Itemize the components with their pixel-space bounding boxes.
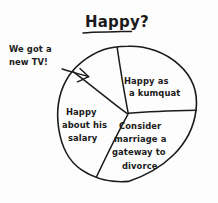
slice-label-divorce-line-1: Consider: [119, 121, 162, 131]
slice-label-kumquat-line-1: Happy as: [124, 76, 168, 86]
pie-chart-figure: Happy? We got a new TV! Happy as a kumqu…: [0, 0, 218, 203]
annotation-line-2: new TV!: [9, 57, 48, 67]
slice-label-salary-line-1: Happy: [66, 107, 97, 117]
slice-label-kumquat-line-2: a kumquat: [129, 88, 180, 98]
slice-label-salary-line-3: salary: [68, 133, 98, 143]
slice-divider-right: [129, 110, 197, 113]
slice-label-divorce-line-4: divorce: [122, 161, 158, 171]
page-title: Happy?: [85, 13, 149, 31]
annotation-line-1: We got a: [9, 44, 52, 54]
slice-label-divorce-line-2: marriage a: [114, 134, 166, 144]
slice-label-salary-line-2: about his: [62, 120, 107, 130]
slice-label-divorce-line-3: gateway to: [112, 147, 166, 157]
title-underline: [83, 32, 132, 34]
sketch-canvas: Happy? We got a new TV! Happy as a kumqu…: [0, 0, 218, 203]
